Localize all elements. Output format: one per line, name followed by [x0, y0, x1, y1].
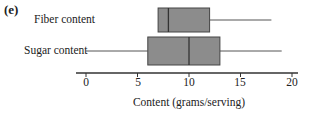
- x-tick-10: 10: [183, 76, 195, 88]
- x-tick-0: 0: [83, 76, 89, 88]
- x-axis-label: Content (grams/serving): [0, 96, 313, 108]
- box-fiber-content: [158, 8, 271, 32]
- x-tick-20: 20: [286, 76, 298, 88]
- x-tick-15: 15: [234, 76, 246, 88]
- x-tick-5: 5: [135, 76, 141, 88]
- box-sugar-content: [86, 37, 282, 65]
